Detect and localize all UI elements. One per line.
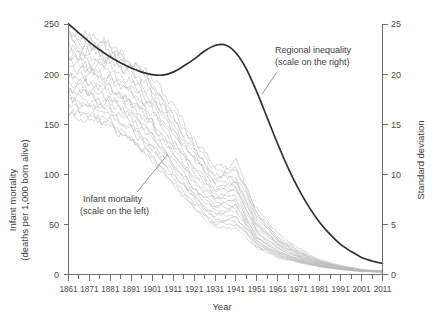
x-axis-tick-label: 1901: [143, 285, 162, 294]
annotation-infant-mortality-line2: (scale on the left): [80, 206, 149, 216]
x-axis-tick-label: 1881: [101, 285, 120, 294]
left-axis-tick-label: 100: [44, 170, 59, 180]
right-axis-tick-label: 10: [391, 170, 401, 180]
x-axis-tick-label: 1951: [248, 285, 267, 294]
left-axis-tick-label: 50: [49, 220, 59, 230]
chart-figure: 050100150200250 0510152025 1861187118811…: [0, 0, 434, 320]
annotation-regional-inequality-line1: Regional inequality: [275, 45, 352, 55]
left-axis-tick-label: 0: [54, 270, 59, 280]
left-axis-tick-label: 200: [44, 70, 59, 80]
x-axis-tick-label: 1921: [185, 285, 204, 294]
x-axis-tick-label: 2011: [374, 285, 392, 294]
right-axis-tick-label: 15: [391, 120, 401, 130]
right-axis-tick-label: 0: [391, 270, 396, 280]
x-axis-tick-label: 1911: [164, 285, 182, 294]
x-axis-tick-label: 1931: [206, 285, 225, 294]
x-axis-tick-label: 1971: [290, 285, 309, 294]
x-axis-tick-label: 1941: [227, 285, 246, 294]
infant-mortality-regional-inequality-chart: 050100150200250 0510152025 1861187118811…: [0, 0, 434, 320]
left-axis-tick-label: 250: [44, 19, 59, 29]
x-axis-tick-label: 1991: [332, 285, 351, 294]
x-axis-tick-label: 1891: [122, 285, 141, 294]
x-axis-tick-label: 1961: [269, 285, 288, 294]
right-axis-tick-label: 25: [391, 19, 401, 29]
annotation-infant-mortality-line1: Infant mortality: [83, 194, 143, 204]
x-axis-tick-label: 1871: [80, 285, 99, 294]
annotation-regional-inequality-line2: (scale on the right): [275, 57, 350, 67]
x-axis-title: Year: [212, 301, 231, 312]
right-axis-title: Standard deviation: [415, 120, 426, 199]
x-axis-tick-label: 1861: [59, 285, 78, 294]
x-axis-tick-label: 2001: [352, 285, 371, 294]
left-axis-tick-label: 150: [44, 120, 59, 130]
left-axis-title-line1: Infant mortality: [7, 169, 18, 232]
x-axis-tick-label: 1981: [311, 285, 330, 294]
left-axis-title-line2: (deaths per 1,000 born alive): [19, 139, 30, 260]
right-axis-tick-label: 5: [391, 220, 396, 230]
right-axis-tick-label: 20: [391, 70, 401, 80]
